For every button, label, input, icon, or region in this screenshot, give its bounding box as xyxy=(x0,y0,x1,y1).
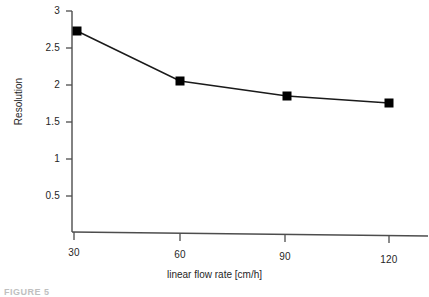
y-tick-label-0.5: 0.5 xyxy=(26,190,60,201)
y-tick-label-1: 1 xyxy=(26,153,60,164)
x-axis-line xyxy=(72,232,428,236)
figure-caption: FIGURE 5 xyxy=(4,287,50,297)
x-tick-label-60: 60 xyxy=(165,249,195,260)
y-axis-title: Resolution xyxy=(13,57,24,147)
data-line-resolution xyxy=(77,31,389,103)
y-tick-label-2: 2 xyxy=(26,79,60,90)
figure-container: 3 2.5 2 1.5 1 0.5 30 60 90 120 Resolutio… xyxy=(0,0,429,297)
x-axis-title: linear flow rate [cm/h] xyxy=(0,269,429,280)
x-tick-label-120: 120 xyxy=(374,254,404,265)
x-tick-label-30: 30 xyxy=(59,247,89,258)
data-point-90 xyxy=(283,92,292,101)
y-tick-label-3: 3 xyxy=(26,5,60,16)
y-tick-label-2.5: 2.5 xyxy=(26,42,60,53)
x-tick-label-90: 90 xyxy=(270,251,300,262)
y-axis-ticks xyxy=(66,11,72,196)
data-point-60 xyxy=(176,77,185,86)
y-tick-label-1.5: 1.5 xyxy=(26,116,60,127)
data-markers xyxy=(73,27,394,108)
data-point-30 xyxy=(73,27,82,36)
data-point-120 xyxy=(385,99,394,108)
